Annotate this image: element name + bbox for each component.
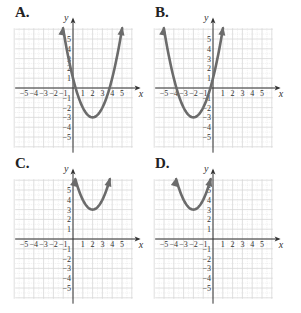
x-tick-label: 4 (250, 240, 254, 249)
x-tick-label: −5 (20, 89, 29, 98)
x-tick-label: 4 (110, 240, 114, 249)
x-tick-label: 1 (81, 240, 85, 249)
y-tick-label: 1 (67, 74, 71, 83)
x-tick-label: −5 (160, 89, 169, 98)
y-tick-label: −4 (62, 274, 71, 283)
x-tick-label: 4 (110, 89, 114, 98)
x-tick-label: 3 (240, 240, 244, 249)
y-tick-label: −5 (202, 133, 211, 142)
x-axis-label: x (278, 88, 284, 99)
x-tick-label: −4 (170, 240, 179, 249)
y-tick-label: −1 (202, 245, 211, 254)
x-axis-label: x (138, 88, 144, 99)
curve-arrow-icon (171, 177, 178, 187)
x-tick-label: −3 (179, 89, 188, 98)
graph-c: C. xy−5−4−3−2−11234554321−1−2−3−4−5 (0, 151, 150, 307)
y-tick-label: −4 (202, 274, 211, 283)
graph-b: B. xy−5−4−3−2−11234554321−1−2−3−4−5 (150, 0, 300, 156)
x-tick-label: −3 (39, 240, 48, 249)
y-axis-label: y (203, 163, 209, 174)
y-tick-label: 4 (67, 196, 71, 205)
y-tick-label: 5 (67, 186, 71, 195)
y-axis-label: y (63, 12, 69, 23)
x-tick-label: −5 (160, 240, 169, 249)
x-axis-label: x (278, 239, 284, 250)
x-tick-label: 5 (120, 240, 124, 249)
y-tick-label: −4 (202, 123, 211, 132)
graph-a: A. xy−5−4−3−2−11234554321−1−2−3−4−5 (0, 0, 150, 156)
x-tick-label: −4 (30, 89, 39, 98)
y-tick-label: 2 (67, 215, 71, 224)
x-tick-label: 2 (231, 240, 235, 249)
y-tick-label: −3 (202, 264, 211, 273)
y-tick-label: 5 (207, 35, 211, 44)
y-tick-label: −2 (202, 255, 211, 264)
y-tick-label: −4 (62, 123, 71, 132)
y-tick-label: −5 (62, 133, 71, 142)
y-tick-label: 4 (207, 196, 211, 205)
x-tick-label: 3 (100, 240, 104, 249)
x-tick-label: 1 (221, 89, 225, 98)
y-tick-label: −1 (62, 245, 71, 254)
y-tick-label: −1 (62, 94, 71, 103)
graph-c-plot: xy−5−4−3−2−11234554321−1−2−3−4−5 (0, 151, 150, 313)
x-tick-label: 2 (91, 89, 95, 98)
y-tick-label: −2 (62, 255, 71, 264)
x-tick-label: 4 (250, 89, 254, 98)
x-tick-label: 2 (91, 240, 95, 249)
y-tick-label: 3 (207, 55, 211, 64)
y-tick-label: 1 (207, 74, 211, 83)
x-tick-label: −3 (179, 240, 188, 249)
y-tick-label: −5 (202, 284, 211, 293)
y-tick-label: 2 (207, 215, 211, 224)
curve-arrow-icon (105, 177, 112, 187)
x-tick-label: −2 (189, 89, 198, 98)
x-tick-label: 5 (120, 89, 124, 98)
x-tick-label: −2 (189, 240, 198, 249)
y-tick-label: −3 (62, 264, 71, 273)
y-tick-label: 2 (207, 64, 211, 73)
graph-b-plot: xy−5−4−3−2−11234554321−1−2−3−4−5 (150, 0, 300, 156)
y-tick-label: 1 (67, 225, 71, 234)
x-tick-label: 5 (260, 89, 264, 98)
x-tick-label: 2 (231, 89, 235, 98)
x-tick-label: −4 (30, 240, 39, 249)
x-tick-label: −2 (49, 89, 58, 98)
y-tick-label: −3 (62, 113, 71, 122)
x-tick-label: 1 (221, 240, 225, 249)
y-tick-label: −3 (202, 113, 211, 122)
x-axis-label: x (138, 239, 144, 250)
y-axis-label: y (203, 12, 209, 23)
x-tick-label: 5 (260, 240, 264, 249)
y-tick-label: 3 (67, 206, 71, 215)
graph-d: D. xy−5−4−3−2−11234554321−1−2−3−4−5 (150, 151, 300, 307)
y-tick-label: 1 (207, 225, 211, 234)
x-tick-label: −3 (39, 89, 48, 98)
x-tick-label: −2 (49, 240, 58, 249)
y-tick-label: 5 (67, 35, 71, 44)
x-tick-label: 1 (81, 89, 85, 98)
x-tick-label: 3 (240, 89, 244, 98)
x-tick-label: 3 (100, 89, 104, 98)
x-tick-label: −5 (20, 240, 29, 249)
y-axis-label: y (63, 163, 69, 174)
graph-d-plot: xy−5−4−3−2−11234554321−1−2−3−4−5 (150, 151, 300, 313)
y-tick-label: 4 (207, 45, 211, 54)
graph-a-plot: xy−5−4−3−2−11234554321−1−2−3−4−5 (0, 0, 150, 156)
y-tick-label: −2 (62, 104, 71, 113)
y-tick-label: −5 (62, 284, 71, 293)
y-tick-label: 3 (207, 206, 211, 215)
